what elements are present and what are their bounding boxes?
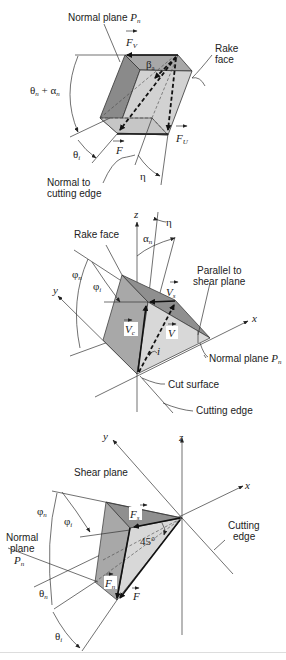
eta-label-mid: η xyxy=(166,216,172,228)
parallel-label-2: shear plane xyxy=(193,276,246,287)
x-label-bottom: x xyxy=(244,479,250,491)
i-label: i xyxy=(157,345,160,357)
shear-plane-label: Shear plane xyxy=(74,467,128,478)
y-label-bottom: y xyxy=(102,430,108,442)
f-label: F xyxy=(115,144,123,156)
bottom-divider xyxy=(0,652,286,653)
normal-to-label-1: Normal to xyxy=(47,177,91,188)
z-label-bottom: z xyxy=(178,431,184,443)
parallel-label-1: Parallel to xyxy=(197,265,242,276)
fv-label: FV xyxy=(125,36,138,50)
phi-n-label-bottom: φn xyxy=(37,505,47,519)
panel-bottom-shear-diagram: y z x Shear plane φn φi Normal plane Pn … xyxy=(6,430,260,651)
theta-i-label: θi xyxy=(73,148,80,162)
alpha-n-label: αn xyxy=(143,232,153,246)
cutting-edge-label-mid: Cutting edge xyxy=(196,405,253,416)
panel-middle-velocity-diagram: z η αn Rake face φn φi y x Parallel to s… xyxy=(52,208,282,416)
vs-arrow xyxy=(150,301,175,302)
phi-n-label: φn xyxy=(72,268,82,282)
oblique-cutting-diagram: Normal plane Pn FV Rake face βa θn + αn … xyxy=(0,0,286,660)
normal-to-label-2: cutting edge xyxy=(47,188,102,199)
phi-i-label: φi xyxy=(93,280,101,294)
y-label-mid: y xyxy=(52,284,58,296)
rake-face-label-mid: Rake face xyxy=(74,229,119,240)
eta-label: η xyxy=(140,170,146,182)
rake-face-label-1: Rake xyxy=(215,43,239,54)
z-label: z xyxy=(133,208,139,220)
phi-i-label-bottom: φi xyxy=(64,515,72,529)
vs-label: Vs xyxy=(166,286,176,300)
f-label-bottom: F xyxy=(132,590,140,602)
cutting-edge-label-1: Cutting xyxy=(228,520,260,531)
normal-plane-sym: Pn xyxy=(13,554,25,568)
x-label-mid: x xyxy=(251,312,257,324)
normal-plane-label: Normal plane Pn xyxy=(68,11,141,25)
theta-i-label-bottom: θi xyxy=(55,630,62,644)
cutting-edge-label-2: edge xyxy=(233,531,256,542)
normal-plane-label-mid: Normal plane Pn xyxy=(209,352,282,366)
normal-plane-label-1: Normal xyxy=(6,532,38,543)
cut-surface-label: Cut surface xyxy=(168,379,220,390)
normal-plane-label-2: plane xyxy=(10,543,35,554)
theta-n-label: θn xyxy=(39,587,48,601)
rake-face-label-2: face xyxy=(215,54,234,65)
theta-alpha-label: θn + αn xyxy=(30,84,60,98)
panel-top-force-block: Normal plane Pn FV Rake face βa θn + αn … xyxy=(30,11,239,199)
angle-45-label: 45° xyxy=(140,535,155,547)
fu-label: FU xyxy=(175,132,189,146)
